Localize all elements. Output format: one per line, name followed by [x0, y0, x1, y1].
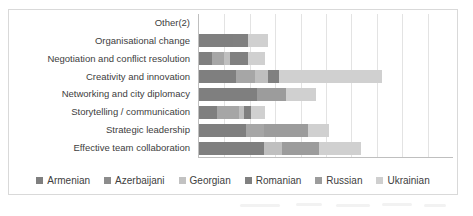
bar-segment-armenian[interactable]: [199, 34, 233, 47]
category-label: Negotiation and conflict resolution: [47, 52, 190, 66]
page-texture-1: [240, 204, 280, 207]
page-texture-4: [382, 203, 412, 206]
category-axis: Other(2)Organisational changeNegotiation…: [13, 14, 194, 158]
category-label: Other(2): [155, 16, 190, 30]
bar-row: [199, 106, 453, 119]
bar-segment-russian[interactable]: [257, 88, 287, 101]
chart-legend: ArmenianAzerbaijaniGeorgianRomanianRussi…: [9, 171, 457, 189]
legend-item-georgian[interactable]: Georgian: [179, 175, 231, 186]
bar-segment-armenian[interactable]: [199, 52, 212, 65]
page-texture-3: [336, 204, 370, 207]
bar-segment-ukrainian[interactable]: [308, 124, 329, 137]
category-label: Strategic leadership: [106, 123, 190, 137]
bar-segment-romanian[interactable]: [244, 106, 251, 119]
category-label: Networking and city diplomacy: [62, 87, 190, 101]
legend-label: Georgian: [190, 175, 231, 186]
bar-row: [199, 124, 453, 137]
bar-segment-ukrainian[interactable]: [319, 142, 361, 155]
chart-container: Other(2)Organisational changeNegotiation…: [0, 0, 473, 216]
category-label: Storytelling / communication: [71, 105, 190, 119]
legend-swatch-icon: [245, 177, 252, 184]
category-label: Effective team collaboration: [73, 141, 190, 155]
bar-segment-armenian[interactable]: [199, 88, 257, 101]
legend-item-azerbaijani[interactable]: Azerbaijani: [104, 175, 164, 186]
legend-swatch-icon: [179, 177, 186, 184]
bar-segment-russian[interactable]: [282, 142, 319, 155]
bar-segment-azerbaijani[interactable]: [212, 52, 225, 65]
bar-row: [199, 16, 453, 29]
bar-segment-ukrainian[interactable]: [251, 106, 265, 119]
legend-label: Armenian: [47, 175, 90, 186]
legend-item-ukrainian[interactable]: Ukrainian: [376, 175, 429, 186]
bar-row: [199, 52, 453, 65]
legend-swatch-icon: [104, 177, 111, 184]
legend-label: Ukrainian: [387, 175, 429, 186]
bar-segment-azerbaijani[interactable]: [236, 70, 256, 83]
legend-label: Russian: [326, 175, 362, 186]
bar-segment-armenian[interactable]: [199, 106, 217, 119]
category-label: Organisational change: [95, 34, 190, 48]
plot-wrapper: Other(2)Organisational changeNegotiation…: [13, 14, 453, 158]
legend-label: Romanian: [256, 175, 302, 186]
bar-segment-ukrainian[interactable]: [248, 52, 265, 65]
chart-frame: Other(2)Organisational changeNegotiation…: [8, 9, 458, 195]
bar-segment-armenian[interactable]: [199, 124, 246, 137]
bar-segment-ukrainian[interactable]: [248, 34, 268, 47]
category-label: Creativity and innovation: [86, 70, 190, 84]
legend-swatch-icon: [376, 177, 383, 184]
bar-segment-azerbaijani[interactable]: [246, 124, 264, 137]
page-texture-2: [296, 203, 322, 206]
bar-row: [199, 142, 453, 155]
bar-row: [199, 70, 453, 83]
legend-item-armenian[interactable]: Armenian: [36, 175, 90, 186]
legend-swatch-icon: [315, 177, 322, 184]
bar-segment-azerbaijani[interactable]: [217, 106, 238, 119]
bar-row: [199, 88, 453, 101]
bar-segment-georgian[interactable]: [255, 70, 268, 83]
plot-area: [198, 14, 453, 158]
legend-label: Azerbaijani: [115, 175, 164, 186]
bar-segment-armenian[interactable]: [199, 70, 236, 83]
bar-segment-ukrainian[interactable]: [279, 70, 382, 83]
bar-segment-romanian[interactable]: [233, 34, 249, 47]
bar-row: [199, 34, 453, 47]
bar-segment-russian[interactable]: [264, 124, 308, 137]
legend-item-russian[interactable]: Russian: [315, 175, 362, 186]
bar-segment-romanian[interactable]: [268, 70, 279, 83]
bar-segment-romanian[interactable]: [230, 52, 248, 65]
bar-segment-armenian[interactable]: [199, 142, 264, 155]
page-texture-5: [424, 204, 446, 207]
bar-segment-georgian[interactable]: [264, 142, 282, 155]
legend-swatch-icon: [36, 177, 43, 184]
bar-segment-ukrainian[interactable]: [286, 88, 316, 101]
legend-item-romanian[interactable]: Romanian: [245, 175, 302, 186]
